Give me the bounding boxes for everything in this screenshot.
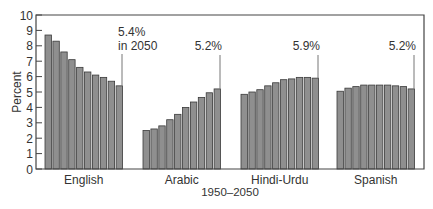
bar [377,85,383,169]
bar [400,87,406,169]
bar-groups [45,35,415,169]
bar [77,67,83,169]
bar [198,97,204,169]
bar [408,89,414,169]
bar [296,77,302,169]
x-axis-title: 1950–2050 [201,186,259,198]
bar [92,75,98,169]
annotation-label: 5.9% [293,39,321,53]
bar [257,90,263,169]
bar [69,60,75,169]
bar [61,52,67,169]
x-category-label: Spanish [354,173,397,187]
y-tick-label: 9 [26,24,33,38]
y-tick-label: 5 [26,86,33,100]
bar [206,93,212,169]
bar [190,102,196,169]
bar [288,79,294,169]
bar [151,129,157,169]
bar-group-spanish [337,85,415,169]
x-category-label: Arabic [165,173,199,187]
y-tick-label: 2 [26,132,33,146]
value-annotations: 5.4%in 20505.2%5.9%5.2% [118,25,416,89]
bar [369,85,375,169]
y-tick-label: 8 [26,39,33,53]
bar [175,114,181,169]
bar [304,77,310,169]
bar [241,94,247,169]
bar [281,80,287,169]
bar [143,131,149,170]
bar [183,107,189,169]
y-tick-label: 10 [20,9,34,23]
bar [345,88,351,169]
bar [167,120,173,169]
annotation-label: 5.4% [118,25,146,39]
bar [45,35,51,169]
bar [214,89,220,169]
bar [116,86,122,169]
y-axis-title: Percent [10,71,24,113]
y-tick-label: 4 [26,101,33,115]
bar [159,126,165,169]
bar [273,83,279,169]
bar [249,92,255,169]
x-category-label: English [64,173,103,187]
language-share-bar-chart: 012345678910 EnglishArabicHindi-UrduSpan… [0,0,433,209]
y-tick-label: 1 [26,147,33,161]
bar-group-arabic [143,89,221,169]
bar [312,78,318,169]
annotation-label: 5.2% [195,39,223,53]
bar [337,91,343,169]
bar [353,87,359,169]
bar [361,85,367,169]
x-category-label: Hindi-Urdu [251,173,308,187]
bar [53,41,59,169]
bar [100,77,106,169]
bar [108,81,114,169]
annotation-label: 5.2% [389,39,417,53]
y-tick-label: 7 [26,55,33,69]
annotation-label: in 2050 [118,39,158,53]
y-tick-label: 3 [26,116,33,130]
bar [384,85,390,169]
y-tick-label: 0 [26,163,33,177]
x-axis-category-labels: EnglishArabicHindi-UrduSpanish [64,173,397,187]
y-tick-label: 6 [26,70,33,84]
chart-canvas: 012345678910 EnglishArabicHindi-UrduSpan… [0,0,433,209]
bar [265,86,271,169]
bar-group-hindi-urdu [241,77,319,169]
bar [85,72,91,169]
bar-group-english [45,35,123,169]
bar [392,86,398,169]
